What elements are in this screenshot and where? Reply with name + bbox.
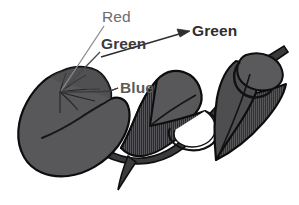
label-green-left: Green [101, 36, 146, 52]
leaf-diagram-figure: Red Green Blue Green [0, 0, 299, 205]
leaf-diagram-illustration [0, 0, 299, 205]
leaf-right [215, 53, 286, 160]
label-red: Red [102, 9, 131, 25]
label-blue: Blue [120, 80, 154, 96]
label-green-right: Green [192, 23, 237, 39]
